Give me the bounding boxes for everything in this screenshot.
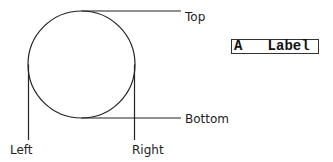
circle-diagram — [0, 0, 333, 162]
right-label: Right — [132, 144, 164, 156]
boxed-label: A Label — [231, 39, 319, 54]
circle — [28, 11, 135, 118]
left-label: Left — [10, 144, 33, 156]
top-label: Top — [185, 11, 205, 23]
bottom-label: Bottom — [185, 113, 229, 125]
